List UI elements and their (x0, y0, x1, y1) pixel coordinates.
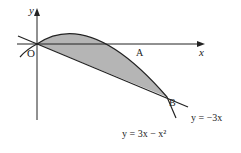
x-axis-label: x (199, 47, 204, 58)
curve-equation-label: y = 3x − x² (122, 129, 166, 139)
graph (0, 0, 241, 153)
point-b-label: B (169, 98, 176, 108)
origin-label: O (27, 48, 35, 59)
shaded-region (37, 34, 167, 97)
line-equation-label: y = −3x (191, 113, 222, 123)
y-axis-arrow (34, 8, 40, 16)
y-axis-label: y (29, 5, 34, 16)
point-a-label: A (136, 48, 143, 58)
